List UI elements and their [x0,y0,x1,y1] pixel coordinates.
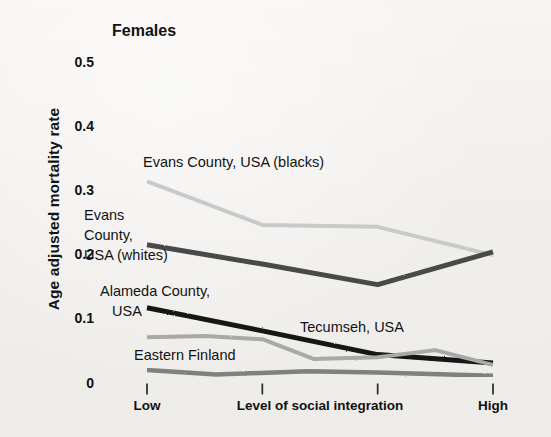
series-line-evans-county-usa-whites [147,245,493,285]
y-tick-label-0_4: 0.4 [48,118,94,134]
y-tick-label-0: 0 [48,375,94,391]
annotation-county: County, [84,228,133,243]
annotation-tecumseh-usa: Tecumseh, USA [300,320,404,335]
series-line-eastern-finland [147,370,493,376]
x-axis-title: Level of social integration [210,398,430,413]
annotation-eastern-finland: Eastern Finland [134,348,236,363]
y-tick-label-0_3: 0.3 [48,182,94,198]
series-line-evans-county-usa-blacks [147,181,493,255]
annotation-alameda-county: Alameda County, [100,284,210,299]
annotation-usa: USA [112,304,142,319]
x-tick-label-high: High [453,398,533,413]
y-tick-label-0_5: 0.5 [48,54,94,70]
x-tick-label-low: Low [107,398,187,413]
annotation-usa-whites: USA (whites) [84,248,168,263]
y-tick-label-0_1: 0.1 [48,310,94,326]
x-tick-marks-group [147,384,493,395]
figure-root: Age adjusted mortality rate Females 0.50… [0,0,551,437]
annotation-evans-county-usa-blacks: Evans County, USA (blacks) [143,155,324,170]
annotation-evans: Evans [84,208,124,223]
